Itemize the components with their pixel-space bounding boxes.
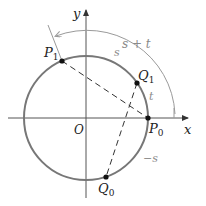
x-axis-label: x [184,122,192,137]
point-p0 [145,115,150,120]
chord-p1-p0 [62,61,148,118]
arc-label-s-plus-t: s + t [122,37,151,51]
point-q0 [103,174,108,179]
label-p1: P1 [43,45,58,62]
arc-label-t: t [149,90,154,103]
y-axis-label: y [72,6,81,21]
label-q1: Q1 [138,68,154,85]
origin-label: O [74,123,84,137]
arc-label-s: s [114,46,120,59]
unit-circle-diagram: y x O P1 Q1 P0 Q0 s + t s t −s [0,0,206,206]
point-p1 [59,58,64,63]
label-q0: Q0 [98,181,115,198]
chord-q1-q0 [106,83,137,177]
arc-label-neg-s: −s [143,152,158,165]
arc-s-plus-t [56,30,175,114]
label-p0: P0 [148,121,164,138]
